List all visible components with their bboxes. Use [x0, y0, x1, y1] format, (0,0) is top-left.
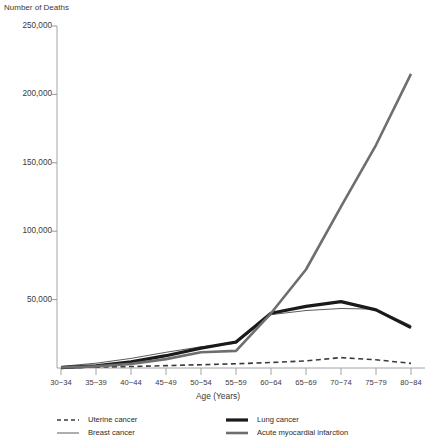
- legend-label: Uterine cancer: [88, 415, 137, 425]
- x-tick-label: 70−74: [330, 378, 351, 387]
- x-tick-label: 75−79: [365, 378, 386, 387]
- thin-line-swatch: [57, 428, 79, 438]
- x-axis-title: Age (Years): [0, 391, 436, 401]
- legend-label: Acute myocardial infarction: [257, 428, 348, 438]
- series-line: [61, 308, 411, 366]
- legend-item[interactable]: Breast cancer: [57, 427, 137, 438]
- legend-item[interactable]: Lung cancer: [226, 414, 348, 425]
- x-tick-label: 55−59: [225, 378, 246, 387]
- legend-label: Lung cancer: [257, 415, 299, 425]
- series-line: [61, 302, 411, 368]
- series-lines: [61, 74, 411, 368]
- legend-item[interactable]: Acute myocardial infarction: [226, 427, 348, 438]
- y-tick-label: 100,000: [0, 226, 52, 235]
- chart-legend: Uterine cancerBreast cancer Lung cancerA…: [0, 414, 436, 444]
- series-line: [61, 74, 411, 368]
- dashed-line-swatch: [57, 415, 79, 425]
- x-tick-label: 40−44: [120, 378, 141, 387]
- legend-column-left: Uterine cancerBreast cancer: [57, 414, 137, 440]
- y-tick-label: 150,000: [0, 158, 52, 167]
- x-tick-label: 80−84: [400, 378, 421, 387]
- legend-column-right: Lung cancerAcute myocardial infarction: [226, 414, 348, 440]
- x-tick-label: 30−34: [50, 378, 71, 387]
- x-tick-label: 45−49: [155, 378, 176, 387]
- y-axis-title: Number of Deaths: [4, 3, 69, 12]
- y-tick-label: 200,000: [0, 89, 52, 98]
- axis-lines: [51, 26, 425, 375]
- x-tick-label: 60−64: [260, 378, 281, 387]
- x-tick-label: 35−39: [85, 378, 106, 387]
- medium-line-swatch: [226, 428, 248, 438]
- y-tick-label: 50,000: [0, 295, 52, 304]
- x-tick-label: 50−54: [190, 378, 211, 387]
- plot-svg: [57, 26, 425, 368]
- legend-label: Breast cancer: [88, 428, 135, 438]
- plot-area: [57, 26, 425, 368]
- x-tick-label: 65−69: [295, 378, 316, 387]
- y-tick-label: 250,000: [0, 21, 52, 30]
- thick-line-swatch: [226, 415, 248, 425]
- legend-item[interactable]: Uterine cancer: [57, 414, 137, 425]
- deaths-by-age-line-chart: Number of Deaths 250,000200,000150,00010…: [0, 0, 436, 448]
